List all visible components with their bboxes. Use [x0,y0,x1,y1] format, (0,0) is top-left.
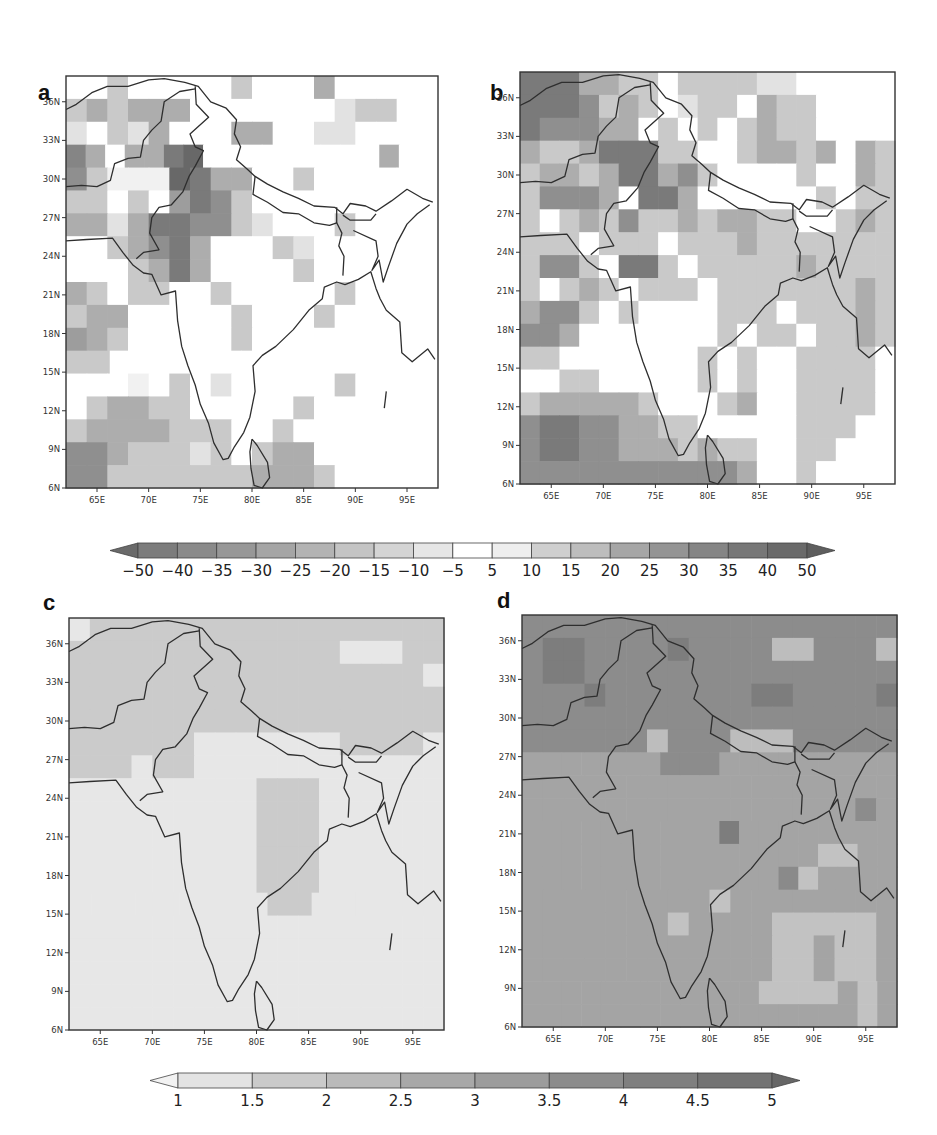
lon-tick-label: 75E [649,1034,665,1044]
colorbar-tick-label: −20 [319,562,351,580]
lat-tick-label: 9N [51,986,63,996]
lat-tick-label: 12N [46,948,63,958]
lat-tick-label: 18N [46,871,63,881]
colorbar-tick-label: 1.5 [240,1092,264,1110]
colorbar-tick-label: −35 [201,562,233,580]
lat-tick-label: 12N [499,945,516,955]
colorbar-tick-label: −50 [122,562,154,580]
lat-tick-label: 18N [43,329,60,339]
lat-tick-label: 36N [499,636,516,646]
colorbar-tick-label: 10 [522,562,541,580]
colorbar-tick-label: 30 [679,562,698,580]
lon-tick-label: 70E [597,1034,613,1044]
lon-tick-label: 85E [300,1037,316,1047]
lon-tick-label: 75E [647,491,663,501]
colorbar-percent-change: −50−40−35−30−25−20−15−10−551015202530354… [110,535,855,591]
lon-tick-label: 85E [751,491,767,501]
lat-tick-label: 15N [43,367,60,377]
colorbar-tick-label: 3 [470,1092,480,1110]
lat-tick-label: 6N [48,483,60,493]
lat-tick-label: 33N [46,677,63,687]
colorbar-tick-label: −10 [398,562,430,580]
lon-tick-label: 80E [701,1034,717,1044]
colorbar-tick-label: 1 [173,1092,183,1110]
lon-tick-label: 95E [856,491,872,501]
colorbar-tick-label: 20 [601,562,620,580]
colorbar-tick-label: 50 [797,562,816,580]
lat-tick-label: 36N [43,97,60,107]
lat-tick-label: 33N [43,135,60,145]
lat-tick-label: 30N [499,713,516,723]
lon-tick-label: 70E [595,491,611,501]
colorbar-tick-label: 5 [767,1092,777,1110]
lat-tick-label: 33N [499,674,516,684]
colorbar-tick-label: 40 [758,562,777,580]
lat-tick-label: 21N [497,286,514,296]
colorbar-tick-label: −5 [442,562,464,580]
colorbar-tick-label: 2 [322,1092,332,1110]
lat-tick-label: 9N [502,440,514,450]
lon-tick-label: 65E [92,1037,108,1047]
lat-tick-label: 24N [43,251,60,261]
lon-tick-label: 90E [347,495,363,505]
lat-tick-label: 27N [499,752,516,762]
map-panel-d: 6N9N12N15N18N21N24N27N30N33N36N65E70E75E… [486,611,906,1055]
lat-tick-label: 6N [502,479,514,489]
colorbar-tick-label: −15 [358,562,390,580]
lat-tick-label: 21N [43,290,60,300]
lat-tick-label: 24N [499,790,516,800]
map-panel-c: 6N9N12N15N18N21N24N27N30N33N36N65E70E75E… [33,614,453,1058]
lat-tick-label: 27N [497,209,514,219]
colorbar-tick-label: 4.5 [686,1092,710,1110]
lat-tick-label: 21N [499,829,516,839]
lat-tick-label: 9N [504,983,516,993]
lat-tick-label: 15N [46,909,63,919]
lat-tick-label: 30N [497,170,514,180]
lat-tick-label: 15N [497,363,514,373]
lat-tick-label: 30N [43,174,60,184]
lat-tick-label: 27N [46,755,63,765]
lon-tick-label: 80E [699,491,715,501]
lon-tick-label: 75E [196,1037,212,1047]
colorbar-tick-label: 4 [619,1092,629,1110]
colorbar-tick-label: −25 [280,562,312,580]
lon-tick-label: 90E [804,491,820,501]
map-panel-a: 6N9N12N15N18N21N24N27N30N33N36N65E70E75E… [30,72,447,516]
lon-tick-label: 95E [858,1034,874,1044]
lat-tick-label: 18N [497,325,514,335]
lon-tick-label: 80E [248,1037,264,1047]
lon-tick-label: 95E [405,1037,421,1047]
colorbar-tick-label: 15 [561,562,580,580]
lon-tick-label: 95E [399,495,415,505]
lat-tick-label: 21N [46,832,63,842]
lon-tick-label: 65E [89,495,105,505]
lon-tick-label: 90E [353,1037,369,1047]
lon-tick-label: 70E [144,1037,160,1047]
lat-tick-label: 36N [497,93,514,103]
colorbar-tick-label: 2.5 [389,1092,413,1110]
lon-tick-label: 90E [806,1034,822,1044]
colorbar-tick-label: 25 [640,562,659,580]
lat-tick-label: 33N [497,131,514,141]
colorbar-tick-label: 5 [487,562,497,580]
lon-tick-label: 85E [296,495,312,505]
colorbar-tick-label: −30 [240,562,272,580]
colorbar-tick-label: 3.5 [537,1092,561,1110]
colorbar-tick-label: 35 [719,562,738,580]
lat-tick-label: 12N [497,402,514,412]
lon-tick-label: 80E [244,495,260,505]
map-panel-b: 6N9N12N15N18N21N24N27N30N33N36N65E70E75E… [484,68,904,512]
lat-tick-label: 12N [43,406,60,416]
lon-tick-label: 75E [192,495,208,505]
lon-tick-label: 65E [545,1034,561,1044]
lat-tick-label: 30N [46,716,63,726]
lon-tick-label: 85E [753,1034,769,1044]
lat-tick-label: 6N [51,1025,63,1035]
lat-tick-label: 36N [46,639,63,649]
lon-tick-label: 70E [141,495,157,505]
lat-tick-label: 24N [46,793,63,803]
colorbar-ratio: 11.522.533.544.55 [150,1065,820,1121]
lat-tick-label: 15N [499,906,516,916]
lat-tick-label: 6N [504,1022,516,1032]
colorbar-tick-label: −40 [162,562,194,580]
